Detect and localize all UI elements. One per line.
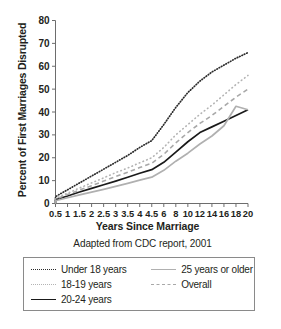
legend-label-18-19: 18-19 years	[61, 279, 112, 290]
chart-legend: Under 18 years 18-19 years 20-24 years 2…	[23, 257, 255, 311]
series-line	[56, 110, 249, 204]
chart-figure: Percent of First Marriages Disrupted 010…	[0, 0, 281, 329]
x-tick-label: 8	[173, 209, 178, 219]
series-line	[56, 53, 249, 204]
legend-label-20-24: 20-24 years	[61, 294, 112, 305]
x-tick-label: 20	[243, 209, 253, 219]
y-tick-label: 80	[38, 15, 50, 26]
y-tick-label: 0	[44, 198, 50, 209]
legend-line-icon-overall	[151, 280, 176, 290]
y-tick-label: 40	[38, 107, 50, 118]
legend-item-under-18: Under 18 years	[31, 262, 149, 277]
data-series-group	[56, 53, 249, 204]
x-axis-label: Years Since Marriage	[40, 220, 255, 232]
legend-item-18-19: 18-19 years	[31, 277, 149, 292]
x-tick-label: 2.5	[97, 209, 110, 219]
legend-line-icon-18-19	[31, 280, 56, 290]
x-tick-label: 16	[219, 209, 229, 219]
y-tick-label: 50	[38, 84, 50, 95]
legend-line-icon-25-or-older	[151, 265, 176, 275]
legend-label-under-18: Under 18 years	[61, 264, 127, 275]
x-tick-label: 6	[161, 209, 166, 219]
x-tick-label: 12	[195, 209, 205, 219]
x-tick-label: 14	[207, 209, 218, 219]
y-tick-label: 30	[38, 129, 50, 140]
x-tick-label: 10	[183, 209, 193, 219]
legend-line-icon-under-18	[31, 265, 56, 275]
x-tick-label: 4	[137, 209, 143, 219]
x-tick-label: 0.5	[49, 209, 62, 219]
x-tick-label: 4.5	[145, 209, 158, 219]
legend-column-right: 25 years or older Overall	[149, 258, 254, 310]
x-tick-label: 1.5	[73, 209, 86, 219]
x-tick-label: 3	[113, 209, 118, 219]
x-axis-ticks: 0.511.522.533.544.568101214161820	[49, 204, 253, 220]
chart-axes	[56, 21, 249, 204]
legend-item-20-24: 20-24 years	[31, 292, 149, 307]
y-tick-label: 20	[38, 152, 50, 163]
legend-label-25-or-older: 25 years or older	[181, 264, 253, 275]
x-tick-label: 18	[231, 209, 241, 219]
y-tick-label: 10	[38, 175, 50, 186]
y-tick-label: 70	[38, 38, 50, 49]
y-tick-label: 60	[38, 61, 50, 72]
legend-item-overall: Overall	[151, 277, 254, 292]
chart-caption: Adapted from CDC report, 2001	[20, 238, 265, 249]
x-tick-label: 3.5	[121, 209, 134, 219]
y-axis-ticks: 01020304050607080	[38, 15, 55, 209]
legend-item-25-or-older: 25 years or older	[151, 262, 254, 277]
legend-line-icon-20-24	[31, 295, 56, 305]
legend-label-overall: Overall	[181, 279, 211, 290]
x-tick-label: 2	[89, 209, 94, 219]
x-tick-label: 1	[65, 209, 70, 219]
legend-column-left: Under 18 years 18-19 years 20-24 years	[24, 258, 149, 310]
